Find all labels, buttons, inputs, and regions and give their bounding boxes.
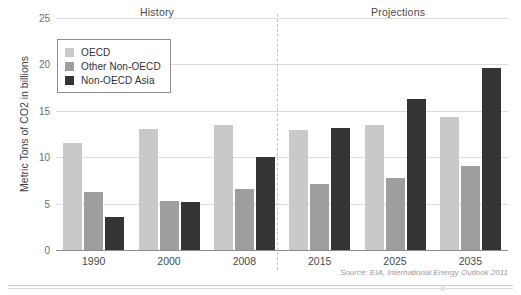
bar-2008-other-non-oecd [235,189,254,250]
cropped-title-remnant [0,0,521,5]
y-tick-label-20: 20 [39,59,50,70]
bar-group-2035 [440,18,501,250]
bar-2000-other-non-oecd [160,201,179,250]
legend-item-other-non-oecd: Other Non-OECD [65,59,161,73]
bar-2015-non-oecd-asia [331,128,350,250]
x-tick-label-2015: 2015 [308,255,331,267]
y-axis-title: Metric Tons of CO2 in billions [18,24,30,224]
bar-2025-oecd [365,125,384,250]
bar-2035-oecd [440,117,459,250]
bar-group-2025 [365,18,426,250]
x-tick-label-2000: 2000 [157,255,180,267]
legend-label: Other Non-OECD [81,61,161,72]
gridline-0 [56,250,508,251]
legend-swatch-icon [65,76,74,85]
legend-item-oecd: OECD [65,45,161,59]
bar-2035-non-oecd-asia [482,68,501,250]
legend-label: OECD [81,47,110,58]
bar-1990-oecd [63,143,82,250]
bar-group-2008 [214,18,275,250]
legend-item-non-oecd-asia: Non-OECD Asia [65,73,161,87]
bar-group-2015 [289,18,350,250]
x-tick-label-1990: 1990 [82,255,105,267]
bar-2025-other-non-oecd [386,178,405,250]
bar-1990-non-oecd-asia [105,217,124,250]
x-tick-label-2035: 2035 [459,255,482,267]
bar-2025-non-oecd-asia [407,99,426,250]
legend: OECDOther Non-OECDNon-OECD Asia [57,39,171,93]
bar-2008-non-oecd-asia [256,157,275,250]
bar-2035-other-non-oecd [461,166,480,250]
y-tick-label-15: 15 [39,105,50,116]
section-label-projections: Projections [371,6,425,18]
legend-swatch-icon [65,48,74,57]
section-label-history: History [140,6,174,18]
source-note: Source: EIA, International Energy Outloo… [340,268,508,277]
y-tick-label-0: 0 [44,245,50,256]
history-projections-divider [277,14,278,270]
co2-emissions-bar-chart: History Projections 0510152025 Metric To… [0,0,521,295]
bar-2000-non-oecd-asia [181,202,200,250]
bar-1990-other-non-oecd [84,192,103,250]
bar-2000-oecd [139,129,158,250]
y-tick-label-25: 25 [39,13,50,24]
bar-2008-oecd [214,125,233,250]
legend-label: Non-OECD Asia [81,75,155,86]
bar-2015-oecd [289,130,308,250]
bar-2015-other-non-oecd [310,184,329,250]
legend-swatch-icon [65,62,74,71]
x-tick-label-2008: 2008 [233,255,256,267]
y-tick-label-5: 5 [44,198,50,209]
x-tick-label-2025: 2025 [383,255,406,267]
y-tick-label-10: 10 [39,152,50,163]
bottom-divider-rule-upper [8,285,513,286]
